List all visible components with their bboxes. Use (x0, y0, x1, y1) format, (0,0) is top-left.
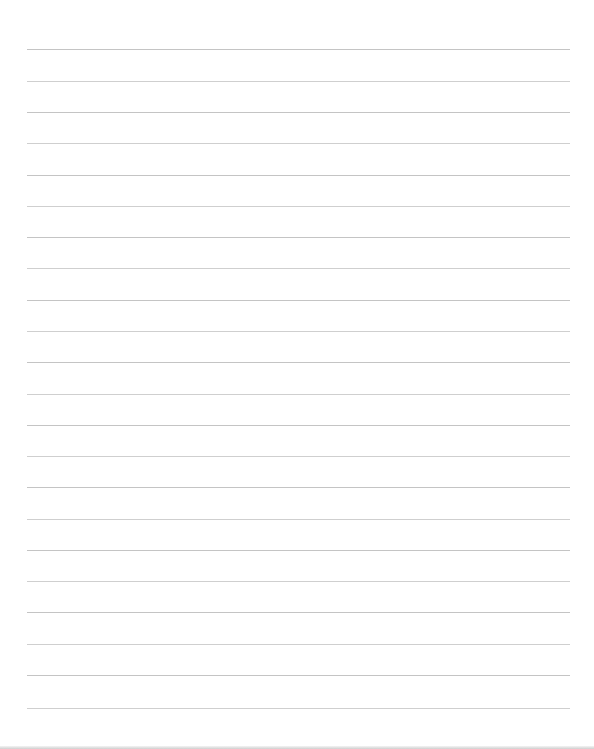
ruled-line (27, 112, 570, 113)
ruled-line (27, 206, 570, 207)
ruled-line (27, 394, 570, 395)
ruled-paper-page (0, 0, 594, 749)
ruled-line (27, 237, 570, 238)
ruled-line (27, 519, 570, 520)
ruled-line (27, 175, 570, 176)
ruled-line (27, 49, 570, 50)
ruled-line (27, 268, 570, 269)
ruled-line (27, 300, 570, 301)
ruled-line (27, 143, 570, 144)
ruled-line (27, 81, 570, 82)
ruled-line (27, 675, 570, 676)
ruled-line (27, 487, 570, 488)
ruled-line (27, 550, 570, 551)
ruled-line (27, 331, 570, 332)
ruled-line (27, 456, 570, 457)
ruled-line (27, 708, 570, 709)
ruled-line (27, 425, 570, 426)
ruled-line (27, 581, 570, 582)
ruled-line (27, 362, 570, 363)
ruled-line (27, 612, 570, 613)
ruled-line (27, 644, 570, 645)
